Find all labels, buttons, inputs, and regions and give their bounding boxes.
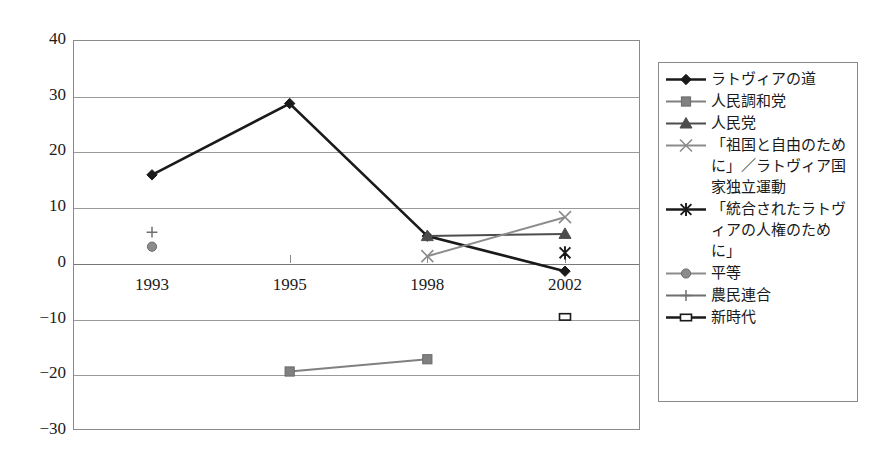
legend-item[interactable]: ラトヴィアの道 <box>664 69 851 90</box>
legend-item[interactable]: 人民党 <box>664 113 851 134</box>
legend-item-label: 新時代 <box>711 307 851 328</box>
gridline <box>74 320 639 321</box>
legend-marker-circle-icon <box>664 263 708 284</box>
y-axis-tick-label: 40 <box>10 29 66 49</box>
chart-legend: ラトヴィアの道人民調和党人民党「祖国と自由のために」／ラトヴィア国家独立運動「統… <box>658 62 858 402</box>
x-axis-tick-mark <box>565 255 566 263</box>
gridline <box>74 97 639 98</box>
legend-item-label: 農民連合 <box>711 285 851 306</box>
legend-item-label: 人民調和党 <box>711 91 851 112</box>
legend-item[interactable]: 人民調和党 <box>664 91 851 112</box>
y-axis-tick-label: 30 <box>10 85 66 105</box>
plot-area <box>73 40 640 430</box>
legend-item[interactable]: 平等 <box>664 263 851 284</box>
legend-marker-plus-icon <box>664 285 708 306</box>
legend-item-label: 「祖国と自由のために」／ラトヴィア国家独立運動 <box>711 135 851 198</box>
legend-item-label: 平等 <box>711 263 851 284</box>
y-axis-tick-label: −10 <box>10 308 66 328</box>
y-axis-tick-label: 0 <box>10 252 66 272</box>
legend-item-label: 人民党 <box>711 113 851 134</box>
x-axis-tick-label: 2002 <box>548 275 582 295</box>
chart-canvas: 403020100−10−20−30 1993199519982002 ラトヴィ… <box>0 0 872 470</box>
legend-marker-diamond-icon <box>664 69 708 90</box>
legend-marker-triangle-icon <box>664 113 708 134</box>
gridline <box>74 375 639 376</box>
legend-marker-asterisk-icon <box>664 199 708 220</box>
legend-marker-x-icon <box>664 135 708 156</box>
x-axis-tick-mark <box>427 255 428 263</box>
gridline <box>74 152 639 153</box>
gridline <box>74 264 639 265</box>
legend-item-label: ラトヴィアの道 <box>711 69 851 90</box>
legend-item[interactable]: 農民連合 <box>664 285 851 306</box>
x-axis-tick-mark <box>290 255 291 263</box>
legend-item-label: 「統合されたラトヴィアの人権のために」 <box>711 199 851 262</box>
legend-marker-open-rect-icon <box>664 307 708 328</box>
y-axis-tick-label: 20 <box>10 140 66 160</box>
y-axis-tick-label: 10 <box>10 196 66 216</box>
x-axis-tick-label: 1995 <box>273 275 307 295</box>
x-axis-tick-label: 1993 <box>135 275 169 295</box>
y-axis-tick-label: −30 <box>10 419 66 439</box>
legend-item[interactable]: 「統合されたラトヴィアの人権のために」 <box>664 199 851 262</box>
gridline <box>74 208 639 209</box>
legend-marker-square-icon <box>664 91 708 112</box>
y-axis-tick-label: −20 <box>10 363 66 383</box>
x-axis-tick-label: 1998 <box>410 275 444 295</box>
legend-item[interactable]: 「祖国と自由のために」／ラトヴィア国家独立運動 <box>664 135 851 198</box>
legend-item[interactable]: 新時代 <box>664 307 851 328</box>
